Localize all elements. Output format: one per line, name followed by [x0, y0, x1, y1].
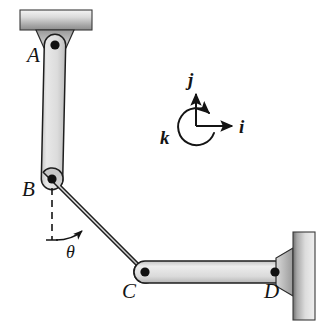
axis-label-k: k [160, 127, 170, 148]
link-ab-body [41, 34, 65, 189]
right-support-surface [293, 232, 315, 320]
pin-joint-b [47, 174, 56, 183]
angle-label-theta: θ [66, 242, 75, 262]
pin-joint-c [140, 267, 149, 276]
top-support-surface [20, 10, 92, 30]
right-support-block [293, 232, 315, 320]
axis-label-j: j [185, 69, 194, 90]
joint-label-a: A [25, 43, 40, 67]
link-ab [41, 34, 65, 189]
pin-joint-a [50, 40, 59, 49]
pin-joint-d [270, 267, 279, 276]
theta-arc-arrow [56, 231, 82, 240]
joint-label-d: D [263, 279, 279, 303]
linkage-diagram-canvas: A B C D θ j i k [0, 0, 329, 322]
joint-label-b: B [22, 177, 35, 201]
angle-theta-annotation [46, 188, 82, 240]
joint-label-c: C [122, 279, 137, 303]
axis-label-i: i [239, 116, 245, 137]
linkage-figure: A B C D θ j i k [0, 0, 329, 322]
top-support-block [20, 10, 92, 30]
coordinate-triad [178, 94, 232, 145]
